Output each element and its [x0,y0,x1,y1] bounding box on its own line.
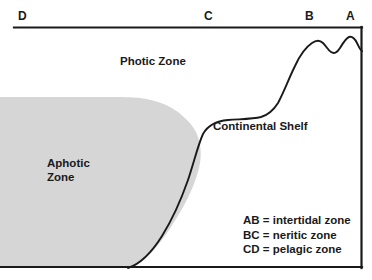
aphotic-zone-fill [0,97,201,268]
legend: AB = intertidal zone BC = neritic zone C… [243,213,361,257]
aphotic-zone-label: Aphotic Zone [47,157,90,184]
axis-marker-b: B [305,10,314,22]
legend-item-cd: CD = pelagic zone [243,242,361,257]
continental-shelf-label: Continental Shelf [213,120,308,134]
axis-marker-a: A [346,10,355,22]
axis-marker-d: D [18,10,27,22]
axis-marker-c: C [204,10,213,22]
legend-item-ab: AB = intertidal zone [243,213,361,228]
legend-item-bc: BC = neritic zone [243,228,361,243]
diagram-canvas: D C B A Photic Zone Aphotic Zone Contine… [0,0,372,280]
photic-zone-label: Photic Zone [120,55,186,69]
